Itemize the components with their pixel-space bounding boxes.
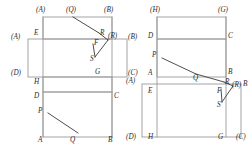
label-right-q: Q <box>193 75 198 82</box>
label-left-c: C <box>114 93 119 100</box>
label-left-q-top: (Q) <box>66 7 76 14</box>
label-left-g: G <box>95 69 100 76</box>
label-right-h-bottom: H <box>148 134 153 141</box>
label-right-c: C <box>228 33 233 40</box>
label-left-e: E <box>34 30 38 37</box>
label-right-a: A <box>148 70 152 77</box>
label-right-b-mid: B <box>228 69 232 76</box>
label-left-r-paren: (R) <box>108 33 117 40</box>
label-left-b-top: (B) <box>104 7 113 14</box>
label-left-s: S <box>90 56 94 63</box>
label-right-d: D <box>148 33 153 40</box>
label-right-b-right: B <box>243 81 247 88</box>
diagram-vector-layer <box>0 0 251 148</box>
label-right-e: E <box>148 88 152 95</box>
label-right-g-top: (G) <box>218 7 228 14</box>
right-figure-shapes <box>142 17 241 137</box>
label-left-b-bottom: B <box>108 137 112 144</box>
label-right-r: R <box>225 79 229 86</box>
label-left-a-left: (A) <box>11 34 20 41</box>
label-left-f: F <box>94 40 98 47</box>
label-right-f: F <box>217 88 221 95</box>
label-right-a-left: (A) <box>126 78 135 85</box>
label-right-c-bottom: (C) <box>236 134 246 141</box>
label-right-s: S <box>217 102 221 109</box>
label-right-r-paren: (R) <box>232 82 241 89</box>
label-right-d-bottom: (D) <box>126 134 136 141</box>
label-left-q-bottom: Q <box>70 137 75 144</box>
label-right-h-top: (H) <box>150 7 160 14</box>
label-left-h: H <box>34 79 39 86</box>
label-left-d-left: (D) <box>11 70 21 77</box>
label-left-a-bottom: A <box>38 137 42 144</box>
label-left-d: D <box>34 93 39 100</box>
label-left-a-top: (A) <box>36 7 45 14</box>
label-right-p: P <box>152 52 156 59</box>
label-right-g-bottom: G <box>218 134 223 141</box>
label-left-r: R <box>100 30 104 37</box>
diagram-canvas: (A) (Q) (B) E (A) R (R) (B) F S (D) G (C… <box>0 0 251 148</box>
label-left-b-right: (B) <box>128 34 137 41</box>
label-left-p: P <box>38 108 42 115</box>
